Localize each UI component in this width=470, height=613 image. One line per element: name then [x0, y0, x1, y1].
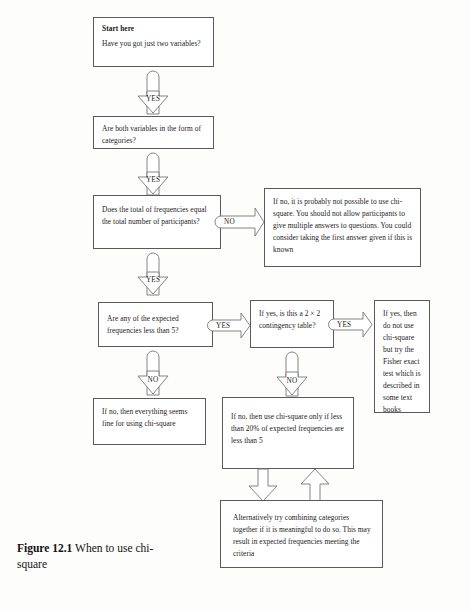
node-not-possible: If no, it is probably not possible to us… — [264, 188, 421, 267]
node-twenty-percent: If no, then use chi-square only if less … — [222, 397, 354, 469]
edge-expected-to-twobytwo: YES — [213, 312, 251, 339]
node-fisher-text: If yes, then do not use chi-square but t… — [383, 308, 422, 416]
edge-label-no: NO — [148, 376, 159, 384]
figure-caption: Figure 12.1 When to use chi-square — [17, 540, 177, 573]
node-combine: Alternatively try combining categories t… — [220, 500, 383, 568]
edge-totals-to-expected: YES — [137, 249, 169, 295]
node-not-possible-text: If no, it is probably not possible to us… — [273, 196, 413, 256]
edge-totals-to-not-possible: NO — [221, 207, 265, 237]
edge-label-yes: YES — [216, 322, 230, 330]
node-all-fine: If no, then everything seems fine for us… — [93, 398, 206, 445]
node-twenty-percent-text: If no, then use chi-square only if less … — [231, 411, 346, 447]
node-totals: Does the total of frequencies equal the … — [93, 195, 221, 249]
edge-label-yes: YES — [146, 95, 160, 103]
figure-number: Figure 12.1 — [17, 542, 72, 554]
node-expected-lt5-text: Are any of the expected frequencies less… — [107, 313, 205, 337]
edge-label-yes: YES — [146, 276, 160, 284]
node-totals-text: Does the total of frequencies equal the … — [102, 204, 213, 228]
edge-label-yes: YES — [337, 321, 351, 329]
edge-twentypercent-to-combine — [248, 469, 278, 502]
edge-label-no: NO — [224, 218, 235, 226]
edge-twobytwo-to-twentypercent: NO — [276, 348, 308, 396]
node-categories: Are both variables in the form of catego… — [93, 116, 214, 149]
edge-categories-to-totals: YES — [137, 149, 169, 195]
node-start: Start here Have you got just two variabl… — [93, 17, 214, 67]
figure-canvas: Start here Have you got just two variabl… — [0, 0, 470, 613]
node-fisher: If yes, then do not use chi-square but t… — [374, 300, 430, 413]
node-start-text: Have you got just two variables? — [102, 38, 206, 50]
node-categories-text: Are both variables in the form of catego… — [102, 123, 206, 147]
node-two-by-two-text: If yes, is this a 2 × 2 contingency tabl… — [259, 308, 326, 332]
node-expected-lt5: Are any of the expected frequencies less… — [98, 302, 213, 347]
node-start-lead: Start here — [102, 23, 206, 35]
node-combine-text: Alternatively try combining categories t… — [233, 512, 375, 560]
node-two-by-two: If yes, is this a 2 × 2 contingency tabl… — [250, 300, 334, 348]
edge-label-yes: YES — [146, 176, 160, 184]
edge-twobytwo-to-fisher: YES — [334, 311, 373, 338]
edge-start-to-categories: YES — [137, 67, 169, 114]
edge-label-no: NO — [287, 377, 298, 385]
node-all-fine-text: If no, then everything seems fine for us… — [102, 406, 198, 430]
edge-expected-to-allfine: NO — [137, 347, 169, 395]
edge-combine-to-twentypercent — [300, 469, 330, 502]
